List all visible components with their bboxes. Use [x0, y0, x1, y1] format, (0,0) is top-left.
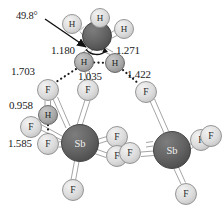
atom-label-f8: F — [127, 148, 132, 158]
atom-label-f7: F — [114, 151, 119, 161]
molecular-diagram-canvas: HHHHHFFFHFFSbFFFFSbFFF 49.8°1.1801.2711.… — [0, 0, 223, 216]
atom-label-h4: H — [81, 57, 88, 67]
atom-label-f9: F — [70, 185, 75, 195]
atom-label-sb1: Sb — [74, 138, 85, 149]
atom-label-sb2: Sb — [166, 145, 177, 156]
measurement-angle: 49.8° — [16, 11, 38, 22]
atom-f3: F — [136, 82, 157, 103]
atom-label-h3: H — [121, 24, 128, 34]
atom-f11: F — [201, 126, 222, 147]
atom-label-f5: F — [45, 139, 50, 149]
bond-Sb2-F12 — [174, 167, 186, 184]
atom-f4: F — [21, 117, 42, 138]
atom-label-f12: F — [183, 189, 188, 199]
atom-h5: H — [106, 54, 125, 73]
atom-h6: H — [39, 106, 58, 125]
atom-label-f6: F — [114, 132, 119, 142]
atom-f8: F — [120, 143, 141, 164]
measurement-d1180: 1.180 — [51, 45, 75, 56]
atom-f9: F — [63, 180, 84, 201]
bond-Sb1-F9 — [71, 161, 79, 181]
atom-sb2: Sb — [154, 132, 191, 169]
measurement-d1271: 1.271 — [116, 45, 140, 56]
bond-F3-Sb2 — [150, 99, 169, 133]
atom-h4: H — [75, 53, 94, 72]
measurement-d1703: 1.703 — [11, 66, 35, 77]
bond-Sb2-stub-left — [146, 142, 153, 148]
measurement-d0958: 0.958 — [9, 100, 33, 111]
atom-group: HHHHHFFFHFFSbFFFFSbFFF — [21, 9, 222, 205]
atom-label-f3: F — [143, 87, 148, 97]
atom-f1: F — [38, 80, 59, 101]
hbond-H4-F1 — [56, 69, 76, 82]
atom-label-f1: F — [45, 85, 50, 95]
measurement-d1035: 1.035 — [78, 71, 102, 82]
atom-sb1: Sb — [62, 125, 99, 162]
atom-label-h2: H — [97, 13, 104, 23]
atom-f12: F — [176, 184, 197, 205]
measurement-d1585: 1.585 — [8, 138, 32, 149]
atom-label-f2: F — [85, 85, 90, 95]
bond-F2-Sb1 — [77, 100, 90, 126]
atom-h2: H — [91, 9, 110, 28]
measurement-d1422: 1.422 — [127, 69, 151, 80]
structure-svg: HHHHHFFFHFFSbFFFFSbFFF — [0, 0, 223, 216]
atom-f2: F — [78, 80, 99, 101]
atom-label-h6: H — [45, 110, 52, 120]
bond-Sb2-F8 — [141, 151, 154, 157]
atom-label-f11: F — [208, 131, 213, 141]
atom-label-h5: H — [112, 58, 119, 68]
atom-label-h1: H — [69, 19, 76, 29]
atom-h1: H — [63, 15, 82, 34]
atom-label-f4: F — [28, 122, 33, 132]
atom-f5: F — [38, 134, 59, 155]
atom-h3: H — [115, 20, 134, 39]
